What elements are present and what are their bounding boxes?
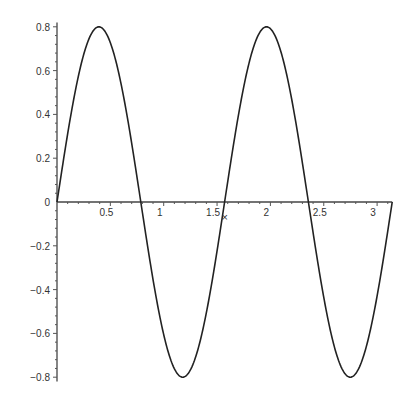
y-tick-label: 0 — [44, 197, 50, 208]
y-tick-label: −0.2 — [30, 241, 50, 252]
x-tick-label: 0.5 — [99, 207, 113, 218]
plot-area: 0.511.522.530.80.60.40.20−0.2−0.4−0.6−0.… — [0, 0, 413, 400]
y-tick-label: 0.6 — [36, 66, 50, 77]
y-tick-label: 0.2 — [36, 153, 50, 164]
y-tick-label: −0.4 — [30, 285, 50, 296]
x-tick-label: 2.5 — [313, 207, 327, 218]
x-tick-label: 1.5 — [206, 207, 220, 218]
y-tick-label: −0.6 — [30, 328, 50, 339]
annotation-marker: × — [222, 211, 228, 223]
x-tick-label: 3 — [370, 207, 376, 218]
y-tick-label: 0.4 — [36, 109, 50, 120]
x-tick-label: 1 — [157, 207, 163, 218]
x-tick-label: 2 — [264, 207, 270, 218]
y-tick-label: −0.8 — [30, 372, 50, 383]
y-tick-label: 0.8 — [36, 22, 50, 33]
